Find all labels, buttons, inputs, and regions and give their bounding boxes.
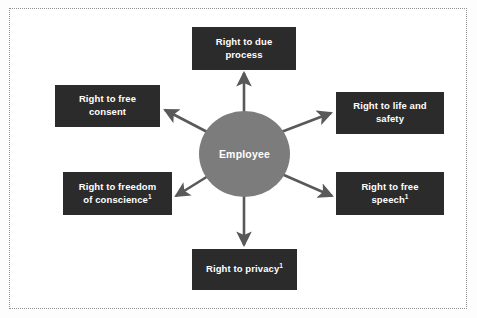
- diagram-canvas: Employee Right to dueprocess Right to fr…: [0, 0, 477, 318]
- node-due-process[interactable]: Right to dueprocess: [192, 27, 296, 70]
- arrow-to-life-safety: [276, 113, 331, 134]
- node-free-consent[interactable]: Right to freeconsent: [55, 85, 160, 127]
- arrow-to-free-speech: [277, 172, 332, 196]
- hub-label: Employee: [219, 148, 270, 160]
- footnote-marker-speech: 1: [405, 192, 409, 199]
- node-free-consent-label: Right to freeconsent: [79, 93, 136, 119]
- node-conscience[interactable]: Right to freedomof conscience1: [63, 172, 172, 215]
- footnote-marker-privacy: 1: [279, 262, 283, 269]
- hub-employee[interactable]: Employee: [199, 111, 290, 197]
- node-privacy-label: Right to privacy1: [206, 263, 283, 276]
- node-due-process-label: Right to dueprocess: [216, 36, 273, 62]
- node-life-safety[interactable]: Right to life andsafety: [336, 92, 444, 134]
- footnote-marker-conscience: 1: [148, 192, 152, 199]
- node-free-speech-label: Right to freespeech1: [361, 181, 418, 207]
- node-life-safety-label: Right to life andsafety: [353, 100, 426, 126]
- node-conscience-label: Right to freedomof conscience1: [79, 181, 157, 207]
- node-free-speech[interactable]: Right to freespeech1: [336, 172, 444, 215]
- node-privacy[interactable]: Right to privacy1: [192, 249, 297, 290]
